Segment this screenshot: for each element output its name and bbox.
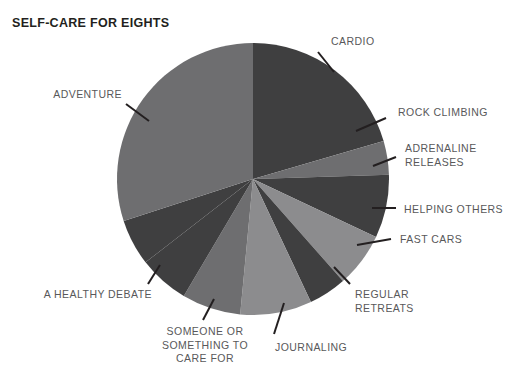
slice-label: A HEALTHY DEBATE — [0, 288, 152, 302]
slice-label: ADVENTURE — [0, 88, 122, 102]
slice-label: FAST CARS — [400, 233, 462, 247]
slice-label: SOMEONE OR SOMETHING TO CARE FOR — [115, 325, 295, 366]
slice-label: REGULAR RETREATS — [355, 288, 414, 315]
pie-chart-figure: SELF-CARE FOR EIGHTS CARDIOROCK CLIMBING… — [0, 0, 521, 384]
slice-label: HELPING OTHERS — [404, 203, 503, 217]
slice-label: CARDIO — [331, 35, 375, 49]
slice-label: ROCK CLIMBING — [398, 106, 488, 120]
slice-label: ADRENALINE RELEASES — [405, 142, 477, 169]
pie-slices — [117, 43, 389, 315]
